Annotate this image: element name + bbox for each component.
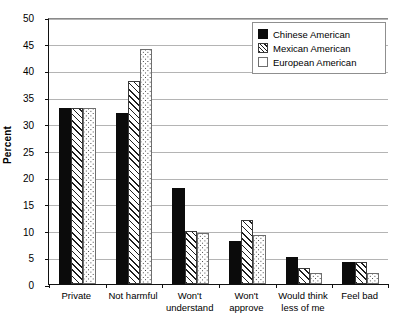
bar [197,233,209,284]
bar [241,220,253,284]
bar [229,241,241,284]
bar [59,108,71,284]
y-axis-tick-label: 50 [10,13,34,24]
y-gridline [49,179,388,180]
bar [298,268,310,284]
y-gridline [49,152,388,153]
legend-swatch-dotted [258,57,268,67]
legend-label: European American [273,57,356,68]
y-axis-tick-label: 30 [10,120,34,131]
y-axis-tick-mark [45,99,49,100]
x-axis-tick-mark [276,284,277,288]
y-axis-tick-mark [45,179,49,180]
legend-swatch-solid-black [258,29,268,39]
y-gridline [49,232,388,233]
bar [253,235,265,284]
x-axis-tick-mark [106,284,107,288]
legend-item: Mexican American [258,41,381,55]
legend-swatch-diagonal-hatch [258,43,268,53]
y-axis-tick-label: 40 [10,66,34,77]
y-axis-tick-mark [45,45,49,46]
grouped-bar-chart: Percent 05101520253035404550 Chinese Ame… [0,0,400,326]
y-axis-tick-mark [45,152,49,153]
bar [286,257,298,284]
y-axis-tick-label: 15 [10,200,34,211]
bar [342,262,354,284]
y-axis-tick-label: 35 [10,93,34,104]
y-gridline [49,125,388,126]
y-axis-tick-mark [45,232,49,233]
y-gridline [49,19,388,20]
bar [310,273,322,284]
legend-label: Mexican American [273,43,351,54]
y-gridline [49,259,388,260]
legend-item: European American [258,55,381,69]
x-axis-tick-mark [219,284,220,288]
y-axis-tick-label: 25 [10,147,34,158]
x-axis-tick-mark [162,284,163,288]
x-axis-tick-mark [388,284,389,288]
bar [71,108,83,284]
bar [172,188,184,284]
bar [355,262,367,284]
chart-legend: Chinese AmericanMexican AmericanEuropean… [252,22,386,74]
bar [185,231,197,284]
y-axis-tick-mark [45,259,49,260]
bar [83,108,95,284]
legend-item: Chinese American [258,27,381,41]
y-axis-tick-mark [45,19,49,20]
x-axis-category-label: Feel bad [325,290,394,302]
y-axis-tick-mark [45,72,49,73]
y-axis-tick-mark [45,125,49,126]
bar [128,81,140,284]
y-gridline [49,205,388,206]
x-axis-tick-mark [332,284,333,288]
y-axis-tick-label: 5 [10,253,34,264]
legend-label: Chinese American [273,29,350,40]
y-axis-tick-label: 45 [10,40,34,51]
y-axis-tick-mark [45,205,49,206]
y-axis-tick-label: 0 [10,280,34,291]
bar [367,273,379,284]
x-axis-tick-mark [49,284,50,288]
x-axis-label-line: Feel bad [325,290,394,302]
y-gridline [49,99,388,100]
y-axis-tick-label: 20 [10,173,34,184]
bar [116,113,128,284]
y-axis-tick-label: 10 [10,227,34,238]
x-axis-label-line: less of me [269,302,338,314]
bar [140,49,152,284]
